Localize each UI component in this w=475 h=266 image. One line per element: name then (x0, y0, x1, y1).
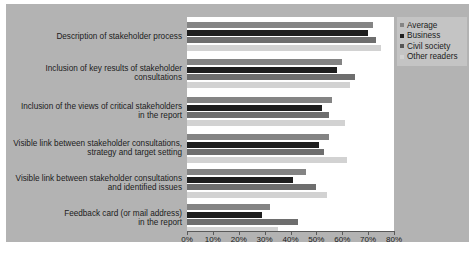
category-label-line: Inclusion of the views of critical stake… (6, 102, 182, 112)
legend-item-other[interactable]: Other readers (400, 52, 465, 63)
x-axis-tick-label: 70% (360, 235, 376, 242)
category-label: Feedback card (or mail address)in the re… (6, 209, 182, 229)
category-label: Inclusion of key results of stakeholderc… (6, 64, 182, 84)
legend-label: Other readers (407, 52, 458, 61)
bar-business (187, 212, 262, 218)
bar-civil (187, 112, 329, 118)
legend-item-average[interactable]: Average (400, 20, 465, 31)
plot-area (187, 17, 394, 231)
legend-item-business[interactable]: Business (400, 31, 465, 42)
bar-civil (187, 184, 316, 190)
bar-business (187, 105, 322, 111)
x-axis-tick-label: 30% (257, 235, 273, 242)
category-label-line: strategy and target setting (6, 148, 182, 158)
legend-label: Business (407, 31, 440, 40)
bar-other (187, 192, 327, 198)
category-label: Visible link between stakeholder consult… (6, 174, 182, 194)
x-axis-tick-label: 80% (386, 235, 402, 242)
category-label-line: and identified issues (6, 183, 182, 193)
bar-other (187, 45, 381, 51)
bar-other (187, 157, 347, 163)
bar-business (187, 177, 293, 183)
bar-civil (187, 219, 298, 225)
legend-swatch-icon (400, 23, 404, 27)
x-axis-tick-label: 40% (282, 235, 298, 242)
bar-other (187, 82, 350, 88)
chart-legend: AverageBusinessCivil societyOther reader… (397, 17, 467, 66)
bar-average (187, 97, 332, 103)
category-axis-labels: Description of stakeholder processInclus… (6, 17, 185, 231)
bar-average (187, 22, 373, 28)
x-axis-tick-label: 50% (308, 235, 324, 242)
legend-swatch-icon (400, 34, 404, 38)
category-label-line: Description of stakeholder process (6, 32, 182, 42)
legend-label: Average (407, 21, 437, 30)
category-label-line: Visible link between stakeholder consult… (6, 139, 182, 149)
category-label: Inclusion of the views of critical stake… (6, 102, 182, 122)
bar-business (187, 142, 319, 148)
bar-civil (187, 37, 376, 43)
x-axis-tick-label: 60% (334, 235, 350, 242)
category-label-line: Inclusion of key results of stakeholder (6, 64, 182, 74)
category-label: Visible link between stakeholder consult… (6, 139, 182, 159)
category-label: Description of stakeholder process (6, 32, 182, 42)
legend-swatch-icon (400, 55, 404, 59)
category-label-line: Visible link between stakeholder consult… (6, 174, 182, 184)
bar-civil (187, 149, 324, 155)
bar-business (187, 67, 337, 73)
category-label-line: in the report (6, 218, 182, 228)
category-label-line: consultations (6, 73, 182, 83)
legend-swatch-icon (400, 44, 404, 48)
legend-item-civil[interactable]: Civil society (400, 41, 465, 52)
bar-average (187, 204, 270, 210)
legend-label: Civil society (407, 42, 450, 51)
category-label-line: Feedback card (or mail address) (6, 209, 182, 219)
x-axis-tick-label: 20% (231, 235, 247, 242)
bar-business (187, 30, 368, 36)
x-axis-tick-label: 10% (205, 235, 221, 242)
category-label-line: in the report (6, 111, 182, 121)
bar-civil (187, 74, 355, 80)
chart-container: Description of stakeholder processInclus… (6, 4, 469, 242)
bar-other (187, 120, 345, 126)
bar-average (187, 169, 306, 175)
bar-average (187, 59, 342, 65)
bar-average (187, 134, 329, 140)
x-axis-tick-label: 0% (181, 235, 193, 242)
